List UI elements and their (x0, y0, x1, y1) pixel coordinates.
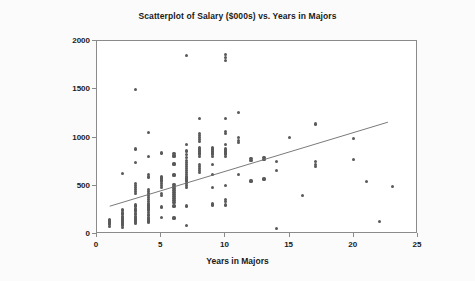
x-axis-tick-mark (224, 233, 225, 237)
x-axis-tick-mark (417, 233, 418, 237)
x-axis-tick-mark (160, 233, 161, 237)
x-axis-tick-mark (289, 233, 290, 237)
x-axis-tick-label: 10 (209, 240, 239, 249)
x-axis-tick-label: 25 (402, 240, 432, 249)
y-axis-tick-label: 0 (56, 229, 90, 238)
chart-title: Scatterplot of Salary ($000s) vs. Years … (0, 11, 475, 21)
x-axis-tick-label: 20 (338, 240, 368, 249)
x-axis-label: Years in Majors (0, 256, 475, 266)
regression-line (97, 41, 416, 232)
plot-area (96, 40, 417, 233)
x-axis-tick-label: 15 (274, 240, 304, 249)
x-axis-tick-mark (96, 233, 97, 237)
scatterplot-figure: Scatterplot of Salary ($000s) vs. Years … (0, 0, 475, 281)
y-axis-tick-label: 2000 (56, 36, 90, 45)
y-axis-tick-label: 500 (56, 180, 90, 189)
y-axis-tick-label: 1500 (56, 84, 90, 93)
x-axis-tick-mark (353, 233, 354, 237)
x-axis-tick-label: 5 (145, 240, 175, 249)
x-axis-tick-label: 0 (81, 240, 111, 249)
y-axis-tick-label: 1000 (56, 132, 90, 141)
